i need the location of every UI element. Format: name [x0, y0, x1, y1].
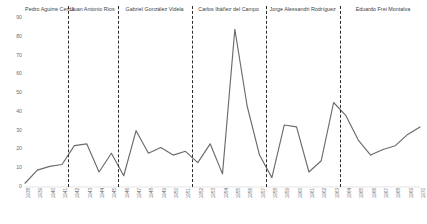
y-axis-tick-60: 60 [16, 72, 22, 77]
x-axis-tick-1945: 1945 [113, 188, 118, 198]
x-axis-tick-1947: 1947 [138, 188, 143, 198]
x-axis-tick-1950: 1950 [175, 188, 180, 198]
x-axis-tick-1964: 1964 [348, 188, 353, 198]
x-axis-tick-1949: 1949 [163, 188, 168, 198]
x-axis-tick-1943: 1943 [89, 188, 94, 198]
president-divider-1952 [192, 6, 193, 187]
series-line-chart [25, 18, 420, 187]
x-axis-tick-1951: 1951 [187, 188, 192, 198]
x-axis-tick-1965: 1965 [360, 188, 365, 198]
x-axis-tick-1954: 1954 [225, 188, 230, 198]
x-axis-tick-1970: 1970 [422, 188, 427, 198]
x-axis-tick-1939: 1939 [39, 188, 44, 198]
x-axis-tick-1961: 1961 [311, 188, 316, 198]
x-axis-tick-1946: 1946 [126, 188, 131, 198]
y-axis-tick-90: 90 [16, 15, 22, 20]
x-axis-tick-1938: 1938 [27, 188, 32, 198]
x-axis-tick-1967: 1967 [385, 188, 390, 198]
x-axis-tick-1955: 1955 [237, 188, 242, 198]
president-label-2: Gabriel González Videla [118, 6, 192, 13]
x-axis-tick-1952: 1952 [200, 188, 205, 198]
x-axis-tick-1966: 1966 [373, 188, 378, 198]
y-axis: 0102030405060708090 [0, 18, 25, 187]
x-axis-tick-1944: 1944 [101, 188, 106, 198]
x-axis-tick-1963: 1963 [336, 188, 341, 198]
x-axis-tick-1956: 1956 [249, 188, 254, 198]
x-axis: 1938193919401941194219431944194519461947… [25, 188, 420, 224]
y-axis-tick-50: 50 [16, 91, 22, 96]
y-axis-tick-0: 0 [19, 184, 22, 189]
president-divider-1958 [266, 6, 267, 187]
x-axis-tick-1942: 1942 [76, 188, 81, 198]
y-axis-tick-70: 70 [16, 53, 22, 58]
y-axis-tick-40: 40 [16, 109, 22, 114]
x-axis-tick-1953: 1953 [212, 188, 217, 198]
president-divider-1946 [118, 6, 119, 187]
x-axis-tick-1968: 1968 [397, 188, 402, 198]
president-label-5: Eduardo Frei Montalva [340, 6, 426, 13]
president-label-0: Pedro Aguirre Cerda [25, 6, 74, 13]
x-axis-tick-1941: 1941 [64, 188, 69, 198]
x-axis-tick-1948: 1948 [150, 188, 155, 198]
x-axis-tick-1957: 1957 [262, 188, 267, 198]
president-divider-1964 [340, 6, 341, 187]
x-axis-tick-1960: 1960 [299, 188, 304, 198]
plot-area [25, 18, 420, 187]
president-label-3: Carlos Ibáñez del Campo [192, 6, 266, 13]
president-label-4: Jorge Alessandri Rodríguez [266, 6, 340, 13]
x-axis-tick-1962: 1962 [323, 188, 328, 198]
y-axis-tick-80: 80 [16, 34, 22, 39]
y-axis-tick-10: 10 [16, 166, 22, 171]
x-axis-tick-1959: 1959 [286, 188, 291, 198]
president-label-1: Juan Antonio Ríos [68, 6, 117, 13]
y-axis-tick-20: 20 [16, 147, 22, 152]
president-divider-1942 [68, 6, 69, 187]
y-axis-tick-30: 30 [16, 128, 22, 133]
series-line-path [25, 29, 420, 183]
x-axis-tick-1958: 1958 [274, 188, 279, 198]
x-axis-tick-1940: 1940 [52, 188, 57, 198]
x-axis-tick-1969: 1969 [410, 188, 415, 198]
